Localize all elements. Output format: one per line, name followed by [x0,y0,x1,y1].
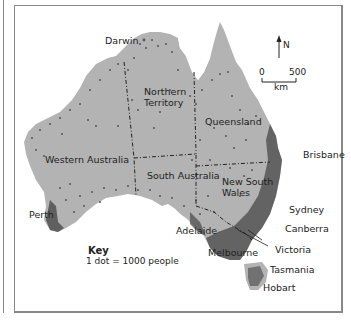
north-arrow-icon [277,35,282,58]
label-perth: Perth [29,210,54,220]
key-title: Key [88,245,109,256]
scale-end: 500 [289,68,306,78]
north-label: N [283,41,290,51]
label-tasmania: Tasmania [270,265,315,275]
label-northern-territory-1: Northern [144,87,186,97]
label-hobart: Hobart [263,283,295,293]
key-text: 1 dot = 1000 people [86,256,179,266]
label-south-australia: South Australia [147,171,220,181]
scale-unit: km [274,83,288,93]
label-melbourne: Melbourne [208,248,258,258]
label-adelaide: Adelaide [176,226,217,236]
label-canberra: Canberra [285,224,329,234]
label-queensland: Queensland [205,117,262,127]
label-nsw-1: New South [222,177,273,187]
label-sydney: Sydney [289,205,324,215]
label-brisbane: Brisbane [303,150,345,160]
label-nsw-2: Wales [222,188,250,198]
scale-start: 0 [259,68,265,78]
label-northern-territory-2: Territory [144,98,183,108]
label-western-australia: Western Australia [45,155,129,165]
label-darwin: Darwin [105,36,138,46]
label-victoria: Victoria [275,245,311,255]
